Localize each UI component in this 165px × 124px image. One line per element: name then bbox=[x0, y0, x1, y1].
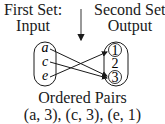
input-e: e bbox=[42, 68, 48, 83]
output-3: 3 bbox=[112, 70, 119, 85]
input-c: c bbox=[42, 54, 49, 69]
caption-pairs: (a, 3), (c, 3), (e, 1) bbox=[0, 106, 165, 123]
input-a: a bbox=[42, 40, 49, 55]
output-2: 2 bbox=[112, 56, 119, 71]
caption-title: Ordered Pairs bbox=[0, 89, 165, 106]
arrow-a-to-3 bbox=[50, 49, 107, 76]
